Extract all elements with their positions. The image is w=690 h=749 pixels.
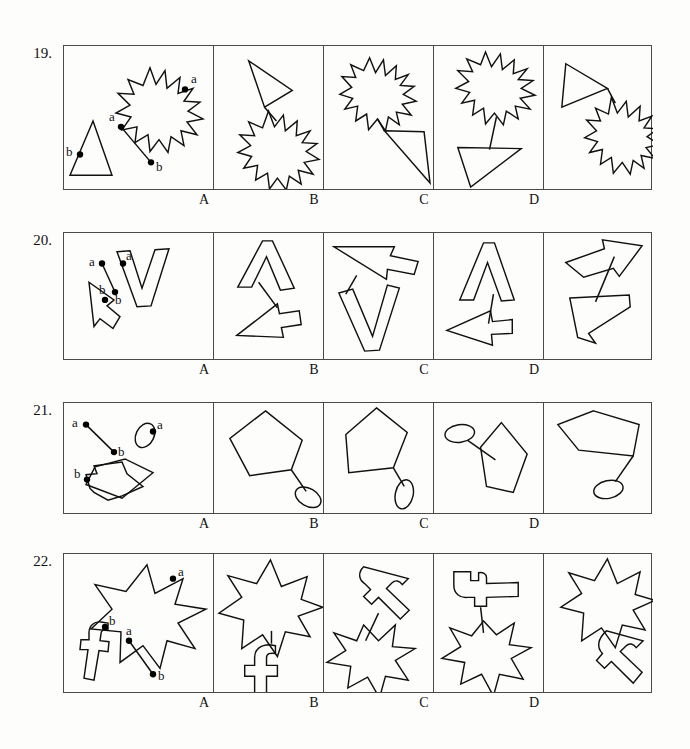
option-panel-b[interactable] xyxy=(323,403,433,513)
option-panel-c[interactable] xyxy=(433,233,543,359)
option-label-b: B xyxy=(259,516,369,532)
question-number: 20. xyxy=(0,232,52,249)
connector-label-b: b xyxy=(158,669,164,683)
option-panel-b[interactable] xyxy=(323,554,433,692)
option-label-d: D xyxy=(479,362,589,378)
option-label-c: C xyxy=(369,695,479,711)
point-label-a: a xyxy=(191,72,197,87)
option-label-b: B xyxy=(259,362,369,378)
connector-label-a: a xyxy=(109,109,115,124)
connector-label-b: b xyxy=(118,445,124,459)
option-panel-d[interactable] xyxy=(543,233,653,359)
point-label-b: b xyxy=(74,467,80,481)
stimulus-panel: a b a b xyxy=(64,233,213,359)
option-panel-d[interactable] xyxy=(543,403,653,513)
point-label-a: a xyxy=(157,418,163,432)
option-panel-c[interactable] xyxy=(433,554,543,692)
connector-endpoint-a xyxy=(83,421,89,427)
option-label-c: C xyxy=(369,362,479,378)
connector-endpoint-b xyxy=(150,671,156,677)
option-label-d: D xyxy=(479,516,589,532)
point-label-b: b xyxy=(99,283,105,297)
point-marker-b xyxy=(77,151,83,157)
question-number: 21. xyxy=(0,402,52,419)
option-label-a: A xyxy=(149,192,259,208)
point-marker-b xyxy=(102,297,108,303)
option-panel-b[interactable] xyxy=(323,233,433,359)
option-label-d: D xyxy=(479,695,589,711)
point-label-a: a xyxy=(126,249,132,263)
stimulus-panel: a b a b xyxy=(64,403,213,513)
connector-endpoint-a xyxy=(99,260,105,266)
connector-endpoint-a xyxy=(118,124,124,130)
point-marker-a xyxy=(182,86,188,92)
point-label-b: b xyxy=(109,614,115,628)
point-label-b: b xyxy=(66,145,72,160)
point-marker-b xyxy=(84,476,90,482)
option-panel-a[interactable] xyxy=(213,233,323,359)
question-row-20: 20. a b a xyxy=(0,232,690,367)
connector-label-b: b xyxy=(156,159,162,174)
question-number: 19. xyxy=(0,45,52,62)
option-panel-a[interactable] xyxy=(213,554,323,692)
option-panel-a[interactable] xyxy=(213,403,323,513)
answer-grid: b a a b xyxy=(63,553,652,693)
answer-grid: a b a b xyxy=(63,402,652,514)
point-marker-b xyxy=(102,624,108,630)
option-label-b: B xyxy=(259,192,369,208)
option-panel-c[interactable] xyxy=(433,46,543,189)
stimulus-panel: b a a b xyxy=(64,554,213,692)
connector-label-a: a xyxy=(89,256,95,270)
option-label-a: A xyxy=(149,516,259,532)
option-label-d: D xyxy=(479,192,589,208)
option-label-c: C xyxy=(369,516,479,532)
connector-endpoint-b xyxy=(148,159,154,165)
connector-label-a: a xyxy=(126,624,132,638)
question-number: 22. xyxy=(0,553,52,570)
question-row-21: 21. a b xyxy=(0,402,690,522)
answer-grid: a b a b xyxy=(63,232,652,360)
connector-endpoint-b xyxy=(111,449,117,455)
point-marker-a xyxy=(170,575,176,581)
option-panel-d[interactable] xyxy=(543,46,653,189)
option-panel-b[interactable] xyxy=(323,46,433,189)
option-panel-c[interactable] xyxy=(433,403,543,513)
connector-label-b: b xyxy=(115,293,121,307)
question-row-19: 19. b a a xyxy=(0,45,690,195)
connector-endpoint-a xyxy=(126,638,132,644)
question-row-22: 22. b a a xyxy=(0,553,690,703)
option-label-a: A xyxy=(149,362,259,378)
option-panel-d[interactable] xyxy=(543,554,653,692)
point-marker-a xyxy=(150,428,156,434)
option-label-a: A xyxy=(149,695,259,711)
point-label-a: a xyxy=(178,565,184,579)
option-label-c: C xyxy=(369,192,479,208)
answer-grid: b a a b xyxy=(63,45,652,190)
test-sheet: 19. b a a xyxy=(0,0,690,749)
option-panel-a[interactable] xyxy=(213,46,323,189)
option-label-b: B xyxy=(259,695,369,711)
stimulus-panel: b a a b xyxy=(64,46,213,189)
connector-label-a: a xyxy=(72,416,78,430)
